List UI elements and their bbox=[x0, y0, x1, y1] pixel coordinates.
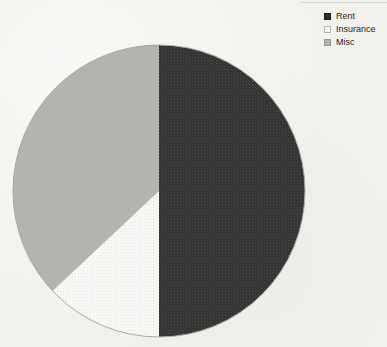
pie-chart bbox=[0, 0, 387, 347]
chart-canvas: Rent Insurance Misc bbox=[0, 0, 387, 347]
legend-item-misc: Misc bbox=[324, 36, 376, 49]
insurance-swatch-icon bbox=[324, 26, 331, 33]
legend-label-misc: Misc bbox=[336, 38, 355, 47]
misc-swatch-icon bbox=[324, 39, 331, 46]
legend-item-insurance: Insurance bbox=[324, 23, 376, 36]
legend-label-rent: Rent bbox=[336, 12, 355, 21]
rent-swatch-icon bbox=[324, 13, 331, 20]
pie-slice-rent bbox=[159, 45, 305, 337]
legend: Rent Insurance Misc bbox=[324, 10, 376, 49]
legend-label-insurance: Insurance bbox=[336, 25, 376, 34]
legend-item-rent: Rent bbox=[324, 10, 376, 23]
